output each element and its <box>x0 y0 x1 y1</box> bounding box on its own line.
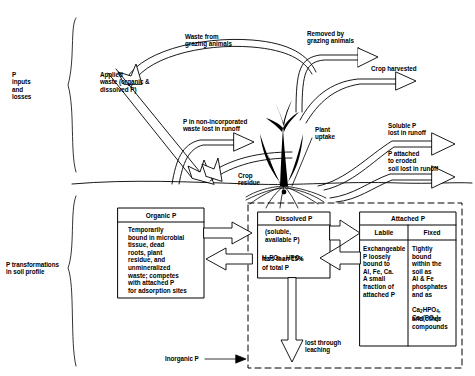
brace-p-inputs-losses <box>68 18 76 172</box>
pointer-inorganic-p <box>205 355 246 363</box>
label-non-incorporated-waste: P in non-incorporated waste lost in runo… <box>183 118 247 133</box>
attached-p-header: Attached P <box>360 215 456 222</box>
dissolved-p-line2: available P) <box>265 236 300 244</box>
label-inorganic-p: Inorganic P <box>165 355 199 362</box>
label-lost-through-leaching: lost through leaching <box>305 339 341 354</box>
attached-p-fixed-body-a: Tightly bound within the soil as Al & Fe… <box>412 245 456 298</box>
dissolved-p-line5: of total P <box>262 264 289 272</box>
label-removed-by-grazing: Removed by grazing animals <box>307 30 354 45</box>
arrow-removed-by-grazing <box>296 48 378 112</box>
label-plant-uptake: Plant uptake <box>315 126 335 141</box>
diagram-artwork <box>0 0 475 376</box>
attached-p-fixed-body-b: and other compounds <box>412 315 456 330</box>
plant-silhouette <box>260 100 303 186</box>
organic-p-body: Temporarily bound in microbial tissue, d… <box>128 226 202 294</box>
root-node-dot <box>282 190 287 195</box>
label-waste-from-grazing: Waste from grazing animals <box>185 33 232 48</box>
label-crop-residue: Crop residue <box>238 172 260 187</box>
label-crop-harvested: Crop harvested <box>371 65 417 72</box>
brace-p-transformations <box>68 196 76 366</box>
label-p-inputs-losses: P inputs and losses <box>12 71 31 101</box>
label-eroded-soil-runoff: P attached to eroded soil lost in runoff <box>388 150 438 172</box>
label-applied-waste: Applied waste (organic & dissolved P) <box>100 71 150 93</box>
organic-p-header: Organic P <box>118 212 204 219</box>
arrow-crop-harvested <box>300 72 416 123</box>
pointer-plant-uptake <box>292 138 312 186</box>
arrow-dissolved-to-organic <box>206 248 252 270</box>
soil-surface-line <box>72 181 472 184</box>
diagram-canvas: P inputs and losses P transformations in… <box>0 0 475 376</box>
arrow-organic-to-dissolved <box>204 222 252 244</box>
dissolved-p-header: Dissolved P <box>258 215 330 222</box>
dissolved-p-line4: less than 15% <box>262 255 304 263</box>
attached-p-labile-header: Labile <box>360 229 408 236</box>
plant-roots <box>246 186 326 208</box>
attached-p-fixed-header: Fixed <box>408 229 456 236</box>
dissolved-p-line1: (soluble, <box>265 228 291 236</box>
arrow-dissolved-to-attached <box>330 220 360 246</box>
arrow-lost-through-leaching <box>281 278 303 362</box>
attached-p-labile-body: Exchangeable P loosely bound to Al, Fe, … <box>363 245 409 298</box>
label-p-transformations: P transformations in soil profile <box>6 261 59 276</box>
label-soluble-p-runoff: Soluble P lost in runoff <box>388 122 426 137</box>
